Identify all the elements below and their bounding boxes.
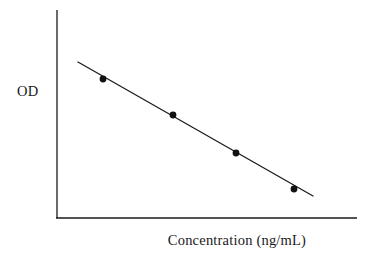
data-point [100,76,107,83]
x-axis-label-wrapper: Concentration (ng/mL) [0,233,374,248]
data-points-group [100,76,298,193]
data-point [170,112,177,119]
chart-figure: OD Concentration (ng/mL) [0,0,374,271]
y-axis-label: OD [17,84,39,99]
data-point [291,186,298,193]
axes-group [56,10,357,218]
x-axis-label: Concentration (ng/mL) [168,233,306,248]
trend-line-group [78,62,313,196]
plot-area [0,0,374,271]
trend-line [78,62,313,196]
data-point [233,150,240,157]
